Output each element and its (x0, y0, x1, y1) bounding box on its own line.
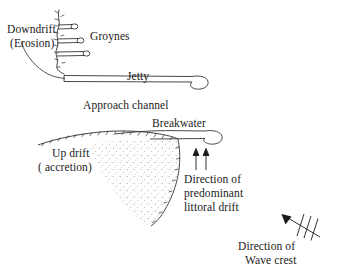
coastal-diagram: Downdrift (Erosion) Groynes Jetty Approa… (0, 0, 338, 277)
groyne-1 (58, 24, 78, 29)
label-groynes: Groynes (90, 30, 130, 44)
label-littoral-line2: predominant (184, 187, 243, 201)
label-littoral-line1: Direction of (184, 173, 241, 187)
label-littoral-line3: littoral drift (184, 201, 239, 215)
groyne-3 (57, 51, 90, 56)
label-wave-line2: Wave crest (245, 254, 296, 268)
label-wave-line1: Direction of (238, 240, 295, 254)
wave-crest-symbol (282, 214, 321, 241)
groyne-2 (57, 38, 84, 43)
label-updrift-line2: ( accretion) (38, 161, 92, 175)
label-downdrift-line2: (Erosion) (10, 37, 54, 51)
label-jetty: Jetty (127, 70, 149, 84)
label-downdrift-line1: Downdrift (7, 23, 56, 37)
label-breakwater: Breakwater (152, 117, 206, 131)
littoral-drift-arrows (193, 149, 209, 171)
label-updrift-line1: Up drift (52, 147, 90, 161)
label-approach-channel: Approach channel (83, 99, 169, 113)
accretion-sediment-wedge (85, 130, 195, 235)
